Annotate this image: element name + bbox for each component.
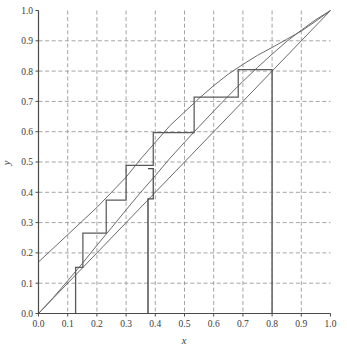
x-tick-label: 0.4 [149, 319, 161, 329]
y-tick-label: 0.4 [21, 188, 33, 198]
y-tick-label: 0.1 [21, 279, 33, 289]
cobweb-plot: 0.00.10.20.30.40.50.60.70.80.91.00.00.10… [0, 0, 347, 353]
x-tick-label: 0.9 [295, 319, 307, 329]
y-tick-label: 0.7 [21, 97, 33, 107]
x-tick-label: 0.6 [208, 319, 220, 329]
x-tick-label: 1.0 [325, 319, 337, 329]
x-tick-label: 0.7 [237, 319, 249, 329]
chart-figure: 0.00.10.20.30.40.50.60.70.80.91.00.00.10… [0, 0, 347, 353]
y-tick-label: 0.6 [21, 127, 33, 137]
y-tick-label: 0.9 [21, 36, 33, 46]
x-tick-label: 0.2 [91, 319, 103, 329]
x-tick-label: 0.3 [120, 319, 132, 329]
y-tick-label: 0.0 [21, 309, 33, 319]
y-tick-label: 0.2 [21, 248, 33, 258]
y-tick-label: 0.3 [21, 218, 33, 228]
x-axis-title: x [181, 335, 187, 346]
y-tick-label: 1.0 [21, 6, 33, 16]
x-tick-label: 0.1 [62, 319, 74, 329]
y-tick-label: 0.5 [21, 157, 33, 167]
x-tick-label: 0.5 [179, 319, 191, 329]
x-tick-label: 0.0 [33, 319, 45, 329]
x-tick-label: 0.8 [266, 319, 278, 329]
y-tick-label: 0.8 [21, 67, 33, 77]
y-axis-title: y [1, 160, 12, 166]
